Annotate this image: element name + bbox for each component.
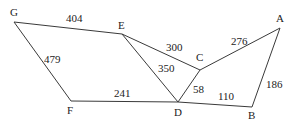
- weighted-graph-diagram: 40447930035027658241110186 GECAFDB: [0, 0, 295, 128]
- node-label-a: A: [276, 12, 284, 24]
- edge-weight-e-c: 300: [166, 41, 183, 53]
- edge-weight-e-d: 350: [158, 62, 175, 74]
- edge-weight-d-b: 110: [218, 90, 235, 102]
- node-label-c: C: [196, 51, 203, 63]
- node-label-f: F: [67, 104, 73, 116]
- edge-weight-g-f: 479: [44, 53, 61, 65]
- edge-weight-a-b: 186: [266, 78, 283, 90]
- edge-weight-g-e: 404: [66, 12, 83, 24]
- edge-d-b: [178, 102, 252, 107]
- node-label-d: D: [174, 106, 182, 118]
- edge-f-d: [71, 101, 178, 102]
- node-label-e: E: [118, 19, 125, 31]
- node-label-b: B: [248, 109, 255, 121]
- edge-a-b: [252, 28, 280, 107]
- edge-weight-f-d: 241: [114, 87, 131, 99]
- edge-g-f: [14, 22, 71, 101]
- edge-weight-c-d: 58: [193, 83, 205, 95]
- node-label-g: G: [10, 6, 18, 18]
- edge-weight-labels: 40447930035027658241110186: [44, 12, 283, 102]
- edge-weight-c-a: 276: [231, 35, 248, 47]
